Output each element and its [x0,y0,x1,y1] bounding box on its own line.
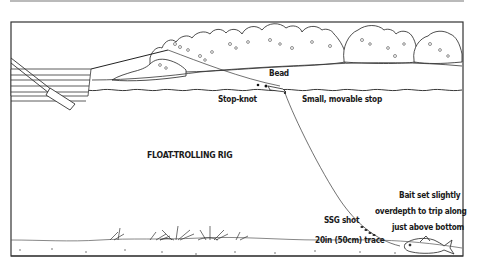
label-stop-knot: Stop-knot [218,94,257,104]
label-bait-line3: just above bottom [392,222,464,232]
label-small-movable-stop: Small, movable stop [302,94,382,104]
label-ssg-shot: SSG shot [324,215,359,225]
label-bead: Bead [269,68,289,78]
diagram-illustration [0,0,477,275]
stop-knot-marker [257,84,260,87]
float-trolling-rig-diagram: Bead Stop-knot Small, movable stop FLOAT… [0,0,477,275]
label-bait-line1: Bait set slightly [399,190,460,200]
label-trace: 20in (50cm) trace [315,235,385,245]
bead-marker [265,85,268,88]
diagram-title: FLOAT-TROLLING RIG [147,149,232,160]
label-bait-line2: overdepth to trip along [375,206,467,216]
